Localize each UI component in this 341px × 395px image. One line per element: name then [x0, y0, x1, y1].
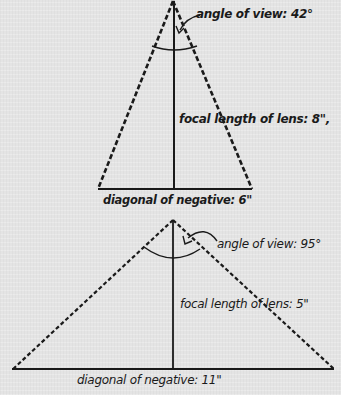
angle-pointer-arrow — [188, 232, 217, 241]
angle-of-view-label-1: angle of view: 42° — [196, 7, 313, 21]
left-ray-dashed — [12, 220, 173, 370]
focal-length-label-2: focal length of lens: 5" — [180, 297, 309, 311]
triangle-long-lens — [98, 1, 252, 189]
diagonal-label-1: diagonal of negative: 6" — [103, 193, 252, 207]
angle-of-view-label-2: angle of view: 95° — [217, 237, 321, 251]
angle-arc — [144, 247, 200, 258]
arrowhead-icon — [183, 236, 192, 244]
left-ray-dashed — [98, 1, 173, 189]
diagonal-label-2: diagonal of negative: 11" — [77, 373, 221, 387]
focal-length-label-1: focal length of lens: 8", — [179, 112, 330, 126]
right-ray-dashed — [173, 1, 252, 189]
